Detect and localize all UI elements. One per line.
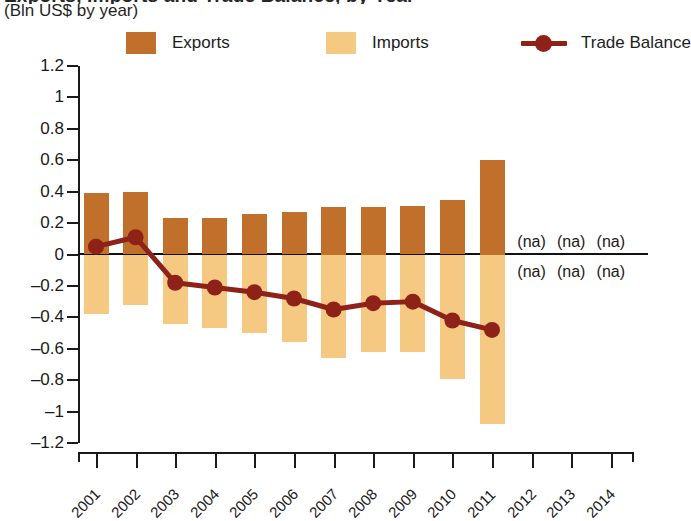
y-tick (67, 285, 78, 287)
x-tick-label: 2011 (464, 486, 499, 521)
x-axis-line (78, 452, 634, 454)
trade-balance-point (128, 229, 144, 245)
y-tick-label: –1 (45, 402, 64, 422)
na-label-exports: (na) (557, 233, 585, 251)
x-tick-label: 2002 (107, 485, 143, 521)
y-tick (67, 411, 78, 413)
x-axis-left-cap (78, 452, 80, 462)
trade-balance-point (326, 301, 342, 317)
trade-balance-point (405, 294, 421, 310)
y-tick (67, 65, 78, 67)
y-tick (67, 254, 78, 256)
legend-item-trade-balance[interactable]: Trade Balance (521, 30, 691, 56)
x-tick (492, 452, 494, 468)
x-tick (611, 452, 613, 468)
y-tick (67, 348, 78, 350)
x-tick (136, 452, 138, 468)
na-label-imports: (na) (557, 263, 585, 281)
x-tick-label: 2006 (266, 485, 302, 521)
x-tick (452, 452, 454, 468)
x-tick (215, 452, 217, 468)
trade-balance-point (246, 284, 262, 300)
trade-balance-line-marker-icon (521, 32, 567, 54)
y-tick (67, 222, 78, 224)
chart-legend: Exports Imports Trade Balance (126, 30, 644, 56)
trade-balance-series (78, 66, 550, 443)
x-tick-label: 2007 (305, 485, 341, 521)
x-tick (294, 452, 296, 468)
x-axis: 2001200220032004200520062007200820092010… (78, 452, 650, 510)
legend-label-exports: Exports (172, 33, 230, 53)
x-tick-label: 2001 (68, 485, 104, 521)
trade-balance-point (444, 312, 460, 328)
y-tick (67, 316, 78, 318)
legend-item-imports[interactable]: Imports (326, 30, 429, 56)
x-tick-label: 2003 (147, 485, 183, 521)
na-label-imports: (na) (597, 263, 625, 281)
trade-balance-point (484, 322, 500, 338)
x-tick (96, 452, 98, 468)
x-tick (532, 452, 534, 468)
x-tick (571, 452, 573, 468)
y-tick-label: –0.4 (31, 307, 64, 327)
x-tick (413, 452, 415, 468)
x-tick (254, 452, 256, 468)
y-tick-label: 0.4 (40, 182, 64, 202)
y-tick-label: –0.2 (31, 276, 64, 296)
y-tick-label: 1.2 (40, 56, 64, 76)
trade-balance-point (207, 279, 223, 295)
y-tick-label: 0.2 (40, 213, 64, 233)
x-tick (373, 452, 375, 468)
plot-area: 1.210.80.60.40.20–0.2–0.4–0.6–0.8–1–1.2 … (78, 66, 550, 443)
y-tick-label: –0.8 (31, 370, 64, 390)
x-tick (175, 452, 177, 468)
chart-subtitle: (Bln US$ by year) (4, 1, 138, 21)
y-tick-label: –1.2 (31, 433, 64, 453)
na-label-imports: (na) (517, 263, 545, 281)
na-label-exports: (na) (517, 233, 545, 251)
y-tick (67, 379, 78, 381)
trade-balance-point (365, 295, 381, 311)
legend-label-trade-balance: Trade Balance (581, 33, 691, 53)
x-tick-label: 2012 (503, 485, 539, 521)
x-tick-label: 2013 (543, 485, 579, 521)
trade-balance-point (286, 290, 302, 306)
y-tick (67, 96, 78, 98)
x-tick-label: 2008 (345, 485, 381, 521)
x-tick-label: 2005 (226, 485, 262, 521)
exports-swatch-icon (126, 32, 156, 54)
x-tick-label: 2010 (424, 485, 460, 521)
y-tick-label: 0.6 (40, 150, 64, 170)
legend-label-imports: Imports (372, 33, 429, 53)
y-tick-label: –0.6 (31, 339, 64, 359)
x-axis-right-cap (632, 452, 634, 462)
y-tick (67, 128, 78, 130)
y-tick-label: 0.8 (40, 119, 64, 139)
x-tick (334, 452, 336, 468)
y-tick (67, 159, 78, 161)
imports-swatch-icon (326, 32, 356, 54)
legend-item-exports[interactable]: Exports (126, 30, 230, 56)
y-tick (67, 191, 78, 193)
trade-balance-line (96, 237, 492, 330)
trade-balance-point (88, 239, 104, 255)
trade-balance-point (167, 275, 183, 291)
na-label-exports: (na) (597, 233, 625, 251)
x-tick-label: 2014 (583, 485, 619, 521)
y-tick-label: 1 (55, 87, 64, 107)
x-tick-label: 2009 (385, 485, 421, 521)
y-tick (67, 442, 78, 444)
y-tick-label: 0 (55, 245, 64, 265)
x-tick-label: 2004 (187, 485, 223, 521)
